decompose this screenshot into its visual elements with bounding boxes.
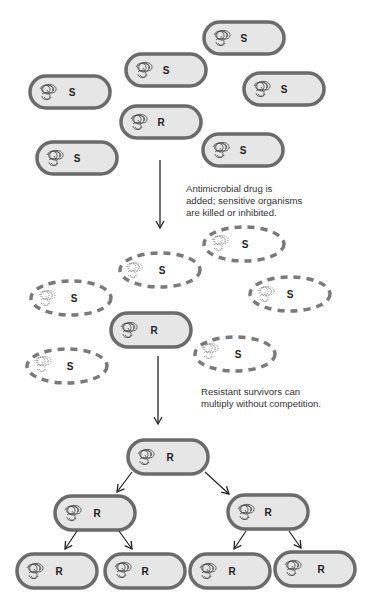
arrow-icon [234, 531, 246, 549]
caption-line: Resistant survivors can [201, 386, 321, 398]
step-2-caption: Resistant survivors can multiply without… [201, 386, 321, 410]
cell-label: R [228, 566, 236, 577]
stage-1-population: S S S S R S S [30, 22, 324, 174]
caption-line: added; sensitive organisms [186, 195, 302, 207]
caption-line: multiply without competition. [201, 398, 321, 410]
dna-icon [258, 286, 274, 301]
cell-label: R [150, 325, 158, 336]
bacterium-sensitive: S [30, 76, 110, 108]
arrow-icon [117, 472, 132, 492]
cell-label: S [235, 349, 242, 360]
bacterium-sensitive: S [126, 54, 206, 86]
cell-label: R [141, 566, 149, 577]
cell-label: S [242, 239, 249, 250]
cell-label: S [287, 289, 294, 300]
dna-icon [212, 235, 228, 250]
dna-icon [126, 262, 142, 277]
bacterium-dead: S [120, 253, 200, 287]
bacterium-resistant: R [128, 440, 208, 474]
cell-label: S [69, 87, 76, 98]
bacterium-dead: S [204, 227, 284, 261]
cell-label: S [163, 65, 170, 76]
bacterium-sensitive: S [203, 134, 283, 166]
dna-icon [202, 343, 218, 358]
arrow-icon [205, 472, 229, 494]
bacterium-resistant: R [190, 554, 270, 588]
cell-label: S [74, 153, 81, 164]
cell-label: S [240, 32, 247, 43]
bacterium-sensitive: S [37, 142, 117, 174]
arrow-icon [119, 531, 132, 549]
cell-label: S [159, 265, 166, 276]
bacterium-dead: S [31, 281, 111, 315]
bacterium-resistant: R [17, 554, 97, 588]
cell-label: R [264, 507, 272, 518]
cell-label: S [71, 293, 78, 304]
cell-label: R [55, 566, 63, 577]
bacterium-resistant: R [55, 496, 135, 530]
step-1-caption: Antimicrobial drug is added; sensitive o… [186, 183, 302, 219]
cell-label: R [93, 508, 101, 519]
cell-label: R [317, 564, 325, 575]
cell-label: S [281, 84, 288, 95]
bacterium-dead: S [195, 337, 275, 371]
caption-line: Antimicrobial drug is [186, 183, 302, 195]
bacterium-sensitive: S [244, 73, 324, 105]
bacterium-dead: S [250, 277, 330, 311]
bacterium-dead: S [27, 349, 107, 383]
cell-label: R [157, 117, 165, 128]
bacterium-resistant: R [121, 106, 201, 138]
bacterium-resistant: R [105, 554, 185, 588]
bacterium-resistant: R [275, 552, 355, 586]
stage-3-population: R R R R R R [17, 440, 355, 588]
caption-line: are killed or inhibited. [186, 207, 302, 219]
bacterium-sensitive: S [204, 22, 284, 54]
cell-label: S [67, 361, 74, 372]
cell-label: R [166, 452, 174, 463]
stage-2-population: S S S S R S S [27, 227, 330, 383]
cell-label: S [240, 145, 247, 156]
dna-icon [39, 290, 55, 305]
diagram-canvas: S S S S R S S [0, 0, 379, 599]
arrow-icon [289, 531, 301, 548]
bacterium-resistant: R [228, 495, 308, 529]
arrow-icon [65, 531, 77, 549]
dna-icon [35, 356, 51, 371]
bacterium-resistant-survivor: R [111, 313, 191, 347]
